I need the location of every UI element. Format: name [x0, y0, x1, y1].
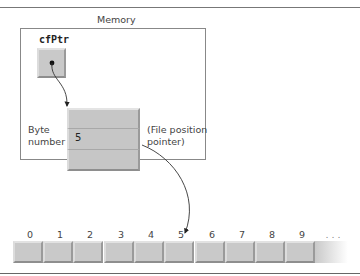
bottom-rule [0, 273, 360, 274]
file-position-arrow [142, 145, 189, 233]
cfptr-arrow [52, 63, 67, 106]
pointer-arrows [0, 0, 360, 276]
